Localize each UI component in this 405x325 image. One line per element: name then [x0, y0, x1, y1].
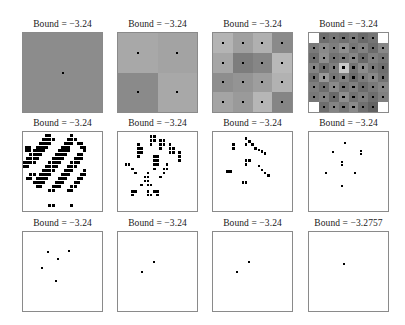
- sample-point: [45, 146, 48, 149]
- panel-title: Bound = −3.24: [110, 217, 205, 229]
- panel-12: Bound = −3.2757: [301, 217, 396, 312]
- panel-7: Bound = −3.24: [205, 117, 300, 212]
- sample-point: [313, 86, 315, 88]
- sample-point: [248, 159, 251, 162]
- panel-plot-area: [308, 231, 389, 312]
- sample-point: [333, 106, 335, 108]
- sample-point: [140, 151, 143, 154]
- sample-point: [342, 66, 344, 68]
- sample-point: [153, 261, 155, 263]
- sample-point: [261, 101, 263, 103]
- sample-point: [323, 37, 325, 39]
- region-cell: [378, 102, 388, 112]
- sample-point: [147, 172, 150, 175]
- sample-point: [74, 138, 77, 141]
- sample-point: [131, 194, 134, 197]
- sample-point: [42, 149, 45, 152]
- sample-point: [245, 163, 248, 166]
- panel-1: Bound = −3.24: [15, 18, 110, 113]
- sample-point: [352, 47, 354, 49]
- sample-point: [372, 86, 374, 88]
- sample-point: [382, 76, 384, 78]
- sample-point: [333, 57, 335, 59]
- sample-point: [222, 81, 224, 83]
- sample-point: [333, 96, 335, 98]
- sample-point: [29, 177, 32, 180]
- sample-point: [313, 57, 315, 59]
- sample-point: [70, 204, 73, 207]
- sample-point: [267, 174, 270, 177]
- sample-point: [341, 185, 343, 187]
- sample-point: [323, 96, 325, 98]
- sample-point: [33, 173, 36, 176]
- sample-point: [236, 271, 238, 273]
- sample-point: [232, 147, 235, 150]
- sample-point: [68, 250, 70, 252]
- sample-point: [382, 57, 384, 59]
- sample-point: [323, 57, 325, 59]
- sample-point: [147, 176, 150, 179]
- sample-point: [333, 47, 335, 49]
- panel-plot-area: [212, 231, 293, 312]
- sample-point: [74, 165, 77, 168]
- sample-point: [61, 157, 64, 160]
- sample-point: [67, 146, 70, 149]
- sample-point: [352, 106, 354, 108]
- sample-point: [352, 76, 354, 78]
- sample-point: [342, 47, 344, 49]
- sample-point: [159, 176, 162, 179]
- sample-point: [323, 86, 325, 88]
- sample-point: [382, 86, 384, 88]
- sample-point: [261, 81, 263, 83]
- sample-point: [261, 62, 263, 64]
- panel-6: Bound = −3.24: [110, 117, 205, 212]
- sample-point: [372, 76, 374, 78]
- sample-point: [172, 147, 175, 150]
- sample-point: [352, 96, 354, 98]
- sample-point: [52, 138, 55, 141]
- sample-point: [80, 142, 83, 145]
- sample-point: [48, 173, 51, 176]
- sample-point: [323, 76, 325, 78]
- sample-point: [163, 143, 166, 146]
- panel-title: Bound = −3.24: [15, 117, 110, 129]
- sample-point: [83, 169, 86, 172]
- sample-point: [67, 149, 70, 152]
- sample-point: [352, 66, 354, 68]
- sample-point: [222, 42, 224, 44]
- panel-5: Bound = −3.24: [15, 117, 110, 212]
- panel-plot-area: [22, 32, 103, 113]
- panel-title: Bound = −3.24: [205, 18, 300, 30]
- sample-point: [372, 106, 374, 108]
- sample-point: [52, 169, 55, 172]
- sample-point: [166, 168, 169, 171]
- sample-point: [313, 47, 315, 49]
- sample-point: [261, 42, 263, 44]
- sample-point: [323, 66, 325, 68]
- sample-point: [62, 72, 64, 74]
- sample-point: [156, 194, 159, 197]
- sample-point: [172, 151, 175, 154]
- region-cell: [309, 33, 319, 43]
- sample-point: [382, 47, 384, 49]
- sample-point: [147, 190, 150, 193]
- sample-point: [137, 155, 140, 158]
- sample-point: [176, 52, 178, 54]
- sample-point: [178, 155, 181, 158]
- sample-point: [352, 57, 354, 59]
- panel-title: Bound = −3.24: [205, 117, 300, 129]
- sample-point: [362, 96, 364, 98]
- sample-point: [83, 149, 86, 152]
- sample-point: [313, 76, 315, 78]
- sample-point: [222, 62, 224, 64]
- sample-point: [134, 190, 137, 193]
- sample-point: [281, 42, 283, 44]
- sample-point: [58, 185, 61, 188]
- sample-point: [232, 143, 235, 146]
- sample-point: [52, 204, 55, 207]
- sample-point: [342, 57, 344, 59]
- sample-point: [229, 170, 232, 173]
- sample-point: [222, 101, 224, 103]
- sample-point: [354, 172, 356, 174]
- sample-point: [137, 52, 139, 54]
